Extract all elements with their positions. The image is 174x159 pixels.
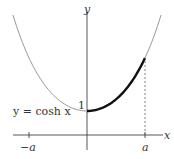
y-intercept-label: 1	[78, 99, 85, 112]
y-axis-label: y	[83, 3, 91, 16]
cosh-chart: y x y = cosh x 1 −a a	[0, 0, 174, 159]
highlighted-arc	[87, 58, 145, 111]
a-label: a	[142, 141, 149, 154]
neg-a-label: −a	[20, 141, 36, 154]
x-axis-label: x	[164, 129, 171, 142]
curve-label: y = cosh x	[12, 105, 71, 118]
